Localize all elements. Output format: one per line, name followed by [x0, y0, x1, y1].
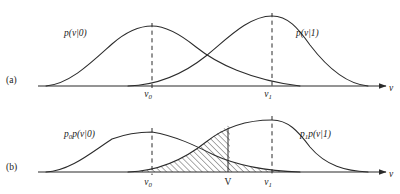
panel-a-label: (a)	[6, 75, 17, 86]
panel-a-axis-label: v	[389, 83, 394, 93]
panel-a: (a) v0 v1 p(v|0) p(v|1) v	[6, 13, 394, 100]
panel-a-curve-p-v-given-1	[128, 16, 368, 86]
panel-b-label-p0-p-v-given-0: p0p(v|0)	[63, 129, 95, 140]
panel-b-tick-label-v1: v1	[264, 177, 272, 188]
panel-b-threshold-label-V: V	[225, 177, 232, 187]
panel-a-label-p-v-given-0: p(v|0)	[63, 28, 87, 39]
panel-b-label: (b)	[6, 162, 17, 173]
panel-b-label-p1-p-v-given-1: p1p(v|1)	[299, 129, 331, 140]
panel-a-tick-label-v0: v0	[144, 89, 152, 100]
panel-a-tick-label-v1: v1	[264, 89, 272, 100]
panel-b-curve-p1-p-v-given-1	[128, 120, 368, 172]
panel-a-label-p-v-given-1: p(v|1)	[295, 28, 319, 39]
panel-b-tick-label-v0: v0	[144, 177, 152, 188]
figure-canvas: (a) v0 v1 p(v|0) p(v|1) v (b)	[0, 0, 400, 194]
probability-density-figure: (a) v0 v1 p(v|0) p(v|1) v (b)	[0, 0, 400, 194]
panel-b-hatch-miss-region	[120, 108, 230, 174]
panel-b-axis-label: v	[389, 169, 394, 179]
panel-b: (b) v0 v1 V p0p(v	[6, 108, 394, 188]
